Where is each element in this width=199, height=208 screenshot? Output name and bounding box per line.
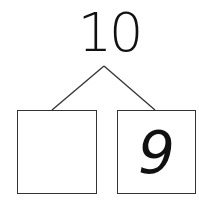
part-value-left <box>18 111 96 193</box>
part-value-right: 9 <box>118 111 195 193</box>
whole-number: 10 <box>76 2 142 64</box>
part-box-left[interactable] <box>17 110 97 194</box>
part-box-right[interactable]: 9 <box>117 110 196 194</box>
